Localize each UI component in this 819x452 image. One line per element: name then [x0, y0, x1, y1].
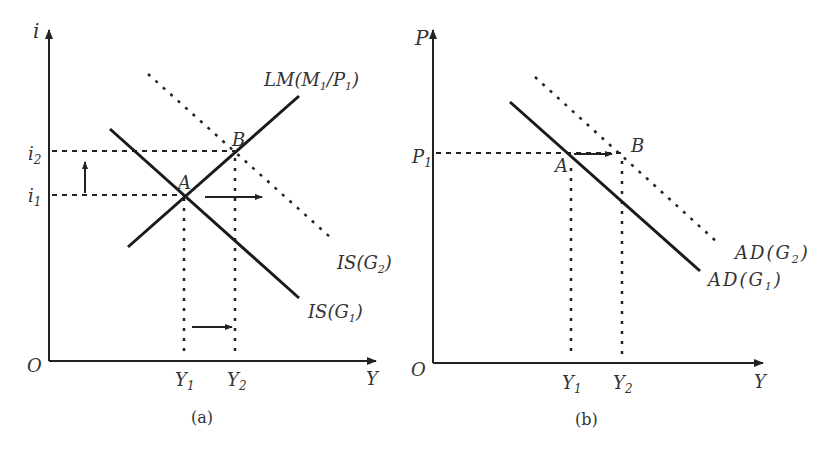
- p-axis-label: P: [414, 26, 429, 50]
- y2-label-a: Y2: [227, 369, 247, 393]
- point-a-label-a: A: [176, 172, 191, 193]
- origin-label-a: O: [27, 355, 42, 376]
- is-g2-label: IS(G2): [336, 252, 392, 276]
- y-axis-label-b: Y: [754, 371, 768, 392]
- is-g1-label: IS(G1): [307, 301, 363, 325]
- caption-a: (a): [191, 408, 213, 427]
- is-g2-curve: [148, 74, 330, 237]
- y-axis-label-a: Y: [366, 368, 380, 389]
- i-axis-label: i: [33, 19, 39, 43]
- diagram-canvas: i O Y i2 i1 Y1 Y2 A B LM(M1/P1) IS(G2) I…: [0, 0, 819, 452]
- y2-label-b: Y2: [613, 372, 633, 396]
- panel-a-islm: i O Y i2 i1 Y1 Y2 A B LM(M1/P1) IS(G2) I…: [27, 19, 392, 427]
- ad-g1-curve: [510, 102, 700, 271]
- origin-label-b: O: [411, 359, 426, 380]
- ad-g1-label: AD(G1): [706, 269, 783, 293]
- point-b-label-a: B: [231, 129, 245, 150]
- caption-b: (b): [575, 410, 598, 429]
- i1-label: i1: [28, 185, 41, 209]
- y1-label-b: Y1: [562, 372, 582, 396]
- panel-b-ad: P O Y P1 Y1 Y2 A B AD(G2) AD(G1) (b): [411, 26, 810, 429]
- point-b-label-b: B: [630, 135, 644, 156]
- lm-curve: [128, 96, 299, 247]
- y1-label-a: Y1: [175, 369, 195, 393]
- ad-g2-label: AD(G2): [733, 242, 810, 266]
- point-a-label-b: A: [553, 155, 568, 176]
- is-g1-curve: [110, 129, 299, 298]
- i2-label: i2: [28, 143, 41, 167]
- lm-label: LM(M1/P1): [263, 69, 359, 93]
- p1-label: P1: [411, 146, 432, 170]
